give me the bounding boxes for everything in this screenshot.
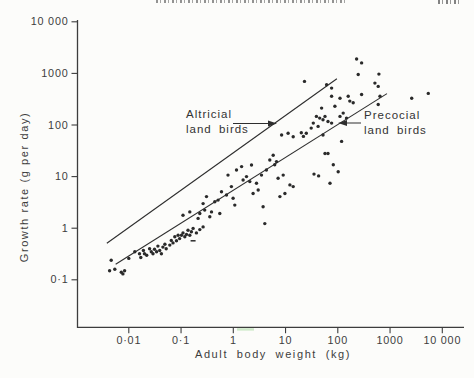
data-point [261,205,264,208]
data-point [233,203,236,206]
data-point [201,225,204,228]
data-point [216,198,219,201]
x-tick-label: 10 [279,334,293,346]
annotation-altricial-land-birds: Altricial land birds [186,107,249,137]
data-point [302,135,305,138]
data-point [288,183,291,186]
data-point [347,95,350,98]
data-point [196,217,199,220]
data-point [260,173,263,176]
y-axis-title: Growth rate (g per day) [18,107,30,267]
annotation-line: Precocial [364,108,427,123]
annotation-line: land birds [186,122,249,137]
data-point [188,210,191,213]
data-point [326,152,329,155]
data-point [348,99,351,102]
data-point [352,101,355,104]
data-point [160,252,163,255]
data-point [198,228,201,231]
data-point [316,125,319,128]
data-point [148,247,151,250]
data-point [208,215,211,218]
data-point [373,81,376,84]
data-point [315,115,318,118]
data-point [292,135,295,138]
x-tick-label: 0·01 [116,334,141,346]
data-point [205,195,208,198]
data-point [165,247,168,250]
data-point [127,257,130,260]
data-point [168,243,171,246]
axes [78,20,465,327]
data-point [201,202,204,205]
data-point [138,252,141,255]
data-point [326,120,329,123]
data-point [176,234,179,237]
altricial-regression-line [107,79,337,244]
x-tick-label: 100 [328,334,348,346]
data-point [133,250,136,253]
data-point [178,237,181,240]
y-tick-label: 1000 [41,67,68,79]
data-point [191,227,194,230]
data-point [377,103,380,106]
data-point [332,163,335,166]
data-point [230,185,233,188]
data-point [323,152,326,155]
data-point [312,172,315,175]
data-point [213,200,216,203]
data-point [276,177,279,180]
data-point [245,175,248,178]
data-point [328,182,331,185]
data-point [145,254,148,257]
data-point [357,73,360,76]
x-tick-label: 10 000 [423,334,461,346]
data-point [377,85,380,88]
data-point [330,121,333,124]
data-point [377,72,380,75]
data-point [321,118,324,121]
data-point [123,269,126,272]
data-point [318,116,321,119]
data-point [263,222,266,225]
data-point [342,111,345,114]
data-point [240,165,243,168]
data-point [139,256,142,259]
data-point [198,212,201,215]
data-point [225,193,228,196]
data-point [310,126,313,129]
data-point [161,245,164,248]
data-point [330,86,333,89]
data-point [360,61,363,64]
data-point [142,249,145,252]
data-point [273,163,276,166]
data-point [325,83,328,86]
scan-artifact-green [237,328,254,330]
data-point [265,168,268,171]
data-point [286,132,289,135]
scanned-figure-page: 10 00010001001010·10·010·1110100100010 0… [0,0,474,378]
data-point [175,239,178,242]
data-point [181,214,184,217]
data-point [378,95,381,98]
data-point [333,105,336,108]
y-tick-label: 1 [62,222,69,234]
annotation-precocial-land-birds: Precocial land birds [364,108,427,138]
x-axis-title: Adult body weight (kg) [168,348,378,360]
data-point [220,190,223,193]
data-point [280,133,283,136]
data-point [321,133,324,136]
data-point [188,234,191,237]
altricial-arrowhead-icon [268,121,277,127]
data-point [278,195,281,198]
data-point [330,95,333,98]
data-point [226,173,229,176]
data-point [283,192,286,195]
data-point [340,140,343,143]
annotation-line: land birds [364,123,427,138]
y-tick-label: 10 000 [31,15,69,27]
precocial-arrowhead-icon [338,120,347,126]
data-point [113,268,116,271]
data-point [427,92,430,95]
data-point [151,252,154,255]
